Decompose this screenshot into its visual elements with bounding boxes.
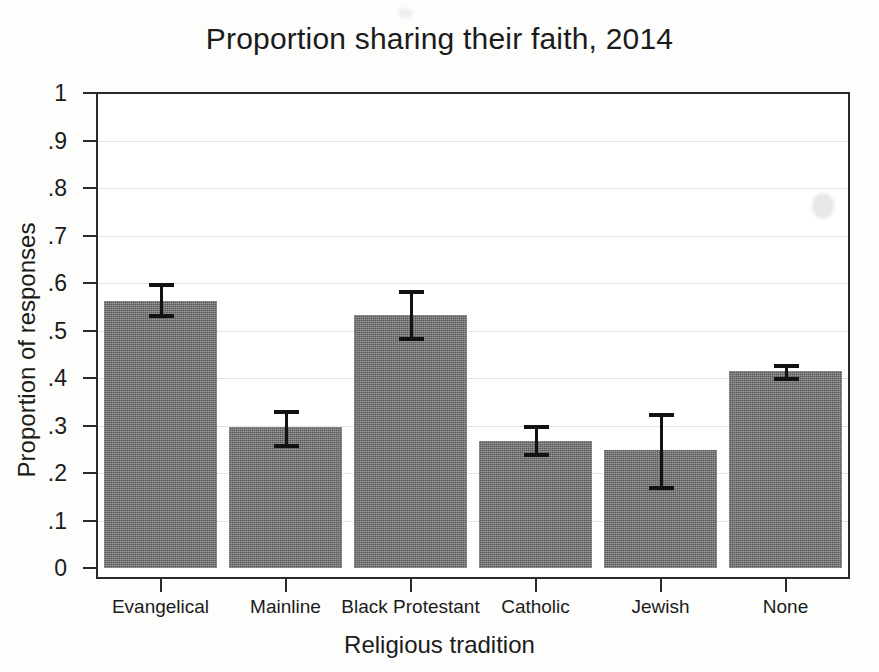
error-cap (774, 364, 799, 368)
y-tick-label: .1 (48, 507, 67, 534)
y-tick-label: 1 (54, 80, 67, 107)
error-cap (149, 283, 174, 287)
x-tick-mark (285, 579, 287, 592)
x-tick-label-black-protestant: Black Protestant (341, 596, 479, 618)
gridline (98, 236, 848, 237)
y-tick-mark (83, 377, 96, 379)
error-bar-jewish (660, 413, 663, 490)
scan-artifact (812, 193, 834, 219)
y-tick-label: 0 (54, 555, 67, 582)
y-tick-label: .2 (48, 460, 67, 487)
y-tick-label: .3 (48, 412, 67, 439)
error-cap (774, 377, 799, 381)
bar-none (729, 371, 842, 568)
chart-figure: Proportion sharing their faith, 2014 Pro… (0, 0, 879, 672)
x-axis-title: Religious tradition (0, 631, 879, 659)
chart-title: Proportion sharing their faith, 2014 (0, 22, 879, 56)
y-tick-label: .4 (48, 365, 67, 392)
x-tick-label-evangelical: Evangelical (112, 596, 209, 618)
y-tick-mark (83, 472, 96, 474)
error-bar-evangelical (160, 283, 163, 318)
error-cap (524, 425, 549, 429)
error-bar-mainline (285, 410, 288, 448)
y-tick-mark (83, 425, 96, 427)
error-cap (274, 410, 299, 414)
y-tick-mark (83, 140, 96, 142)
x-tick-mark (535, 579, 537, 592)
y-tick-label: .6 (48, 270, 67, 297)
x-tick-label-mainline: Mainline (250, 596, 321, 618)
y-tick-mark (83, 187, 96, 189)
bar-black-protestant (354, 315, 467, 568)
bar-mainline (229, 427, 342, 568)
error-cap (649, 486, 674, 490)
y-tick-mark (83, 282, 96, 284)
y-tick-mark (83, 92, 96, 94)
error-cap (274, 444, 299, 448)
error-cap (399, 290, 424, 294)
y-tick-label: .8 (48, 175, 67, 202)
error-cap (524, 453, 549, 457)
gridline (98, 141, 848, 142)
y-tick-mark (83, 330, 96, 332)
x-axis: Religious tradition EvangelicalMainlineB… (0, 579, 879, 672)
x-tick-label-catholic: Catholic (501, 596, 570, 618)
y-tick-label: .9 (48, 127, 67, 154)
x-tick-mark (785, 579, 787, 592)
x-tick-mark (660, 579, 662, 592)
y-axis-title: Proportion of responses (13, 110, 41, 590)
gridline (98, 283, 848, 284)
x-tick-label-jewish: Jewish (631, 596, 689, 618)
scan-artifact (398, 8, 412, 18)
y-tick-label: .7 (48, 222, 67, 249)
plot-area (98, 93, 848, 568)
gridline (98, 188, 848, 189)
error-cap (649, 413, 674, 417)
error-bar-black-protestant (410, 290, 413, 341)
y-tick-mark (83, 520, 96, 522)
bar-catholic (479, 441, 592, 568)
y-tick-mark (83, 235, 96, 237)
error-cap (399, 337, 424, 341)
y-axis: Proportion of responses 0.1.2.3.4.5.6.7.… (0, 0, 96, 672)
y-tick-label: .5 (48, 317, 67, 344)
bar-evangelical (104, 301, 217, 568)
x-tick-mark (410, 579, 412, 592)
y-tick-mark (83, 567, 96, 569)
error-cap (149, 314, 174, 318)
x-tick-label-none: None (763, 596, 808, 618)
x-tick-mark (160, 579, 162, 592)
